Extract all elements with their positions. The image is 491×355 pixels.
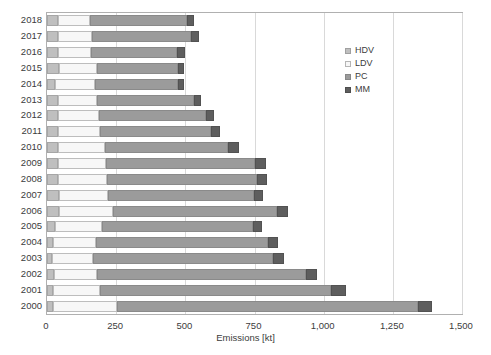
bar-row[interactable]: [47, 206, 288, 217]
bar-segment-ldv[interactable]: [53, 301, 117, 312]
bar-row[interactable]: [47, 253, 284, 264]
bar-segment-pc[interactable]: [97, 95, 194, 106]
bar-row[interactable]: [47, 126, 220, 137]
bar-segment-ldv[interactable]: [52, 253, 94, 264]
bar-segment-mm[interactable]: [178, 63, 184, 74]
bar-row[interactable]: [47, 142, 239, 153]
bar-row[interactable]: [47, 301, 432, 312]
bar-row[interactable]: [47, 221, 262, 232]
bar-segment-pc[interactable]: [102, 221, 253, 232]
bar-segment-mm[interactable]: [206, 110, 215, 121]
bar-segment-pc[interactable]: [117, 301, 419, 312]
legend-item-mm[interactable]: MM: [345, 83, 374, 96]
bar-segment-hdv[interactable]: [47, 206, 59, 217]
bar-row[interactable]: [47, 63, 184, 74]
bar-segment-hdv[interactable]: [47, 79, 55, 90]
bar-segment-ldv[interactable]: [54, 269, 97, 280]
bar-segment-mm[interactable]: [306, 269, 317, 280]
bar-segment-mm[interactable]: [178, 79, 184, 90]
bar-segment-hdv[interactable]: [47, 47, 58, 58]
bar-row[interactable]: [47, 158, 266, 169]
bar-segment-ldv[interactable]: [55, 79, 94, 90]
bar-segment-mm[interactable]: [228, 142, 239, 153]
bar-segment-mm[interactable]: [331, 285, 346, 296]
bar-segment-pc[interactable]: [108, 190, 253, 201]
bar-segment-hdv[interactable]: [47, 142, 58, 153]
bar-row[interactable]: [47, 269, 317, 280]
bar-row[interactable]: [47, 174, 267, 185]
bar-segment-ldv[interactable]: [58, 15, 90, 26]
bar-segment-pc[interactable]: [113, 206, 278, 217]
bar-segment-ldv[interactable]: [58, 95, 97, 106]
bar-row[interactable]: [47, 285, 346, 296]
bar-segment-pc[interactable]: [99, 110, 206, 121]
bar-segment-pc[interactable]: [92, 31, 191, 42]
bar-segment-hdv[interactable]: [47, 126, 58, 137]
bar-segment-ldv[interactable]: [53, 285, 100, 296]
bar-segment-mm[interactable]: [191, 31, 199, 42]
bar-row[interactable]: [47, 190, 263, 201]
bar-segment-mm[interactable]: [277, 206, 288, 217]
bar-segment-mm[interactable]: [211, 126, 220, 137]
bar-segment-ldv[interactable]: [59, 190, 109, 201]
bar-segment-hdv[interactable]: [47, 158, 58, 169]
bar-segment-pc[interactable]: [96, 237, 268, 248]
bar-segment-pc[interactable]: [97, 63, 177, 74]
bar-segment-ldv[interactable]: [59, 63, 98, 74]
bar-segment-mm[interactable]: [273, 253, 284, 264]
bar-segment-mm[interactable]: [418, 301, 432, 312]
bar-segment-mm[interactable]: [177, 47, 185, 58]
legend-item-hdv[interactable]: HDV: [345, 44, 374, 57]
bar-segment-pc[interactable]: [106, 158, 255, 169]
bar-segment-hdv[interactable]: [47, 269, 54, 280]
bar-segment-ldv[interactable]: [58, 110, 100, 121]
bar-segment-mm[interactable]: [268, 237, 279, 248]
bar-row[interactable]: [47, 47, 185, 58]
bar-segment-hdv[interactable]: [47, 63, 59, 74]
bar-segment-mm[interactable]: [187, 15, 194, 26]
bar-segment-pc[interactable]: [107, 174, 256, 185]
bar-segment-ldv[interactable]: [58, 47, 91, 58]
bar-segment-hdv[interactable]: [47, 31, 58, 42]
bar-row[interactable]: [47, 31, 199, 42]
bar-segment-hdv[interactable]: [47, 110, 58, 121]
bar-segment-pc[interactable]: [97, 269, 306, 280]
bar-segment-pc[interactable]: [100, 126, 211, 137]
bar-segment-hdv[interactable]: [47, 221, 55, 232]
bar-segment-ldv[interactable]: [58, 142, 105, 153]
legend-item-pc[interactable]: PC: [345, 70, 374, 83]
bar-segment-mm[interactable]: [257, 174, 268, 185]
bar-segment-mm[interactable]: [255, 158, 266, 169]
bar-segment-pc[interactable]: [91, 47, 177, 58]
chart-legend: HDVLDVPCMM: [345, 44, 374, 96]
bar-row[interactable]: [47, 237, 278, 248]
bar-segment-mm[interactable]: [254, 190, 264, 201]
bar-segment-hdv[interactable]: [47, 174, 58, 185]
bar-segment-ldv[interactable]: [59, 206, 113, 217]
bar-segment-ldv[interactable]: [58, 31, 92, 42]
bar-segment-hdv[interactable]: [47, 190, 59, 201]
y-axis-tick-label: 2001: [2, 284, 42, 295]
bar-segment-pc[interactable]: [100, 285, 331, 296]
bar-row[interactable]: [47, 79, 184, 90]
legend-item-ldv[interactable]: LDV: [345, 57, 374, 70]
bar-segment-mm[interactable]: [253, 221, 263, 232]
bar-segment-pc[interactable]: [105, 142, 228, 153]
bar-segment-mm[interactable]: [194, 95, 202, 106]
bar-segment-hdv[interactable]: [47, 15, 58, 26]
y-axis-tick-label: 2002: [2, 268, 42, 279]
bar-segment-pc[interactable]: [90, 15, 187, 26]
bar-segment-pc[interactable]: [95, 79, 178, 90]
bar-segment-ldv[interactable]: [58, 174, 108, 185]
bar-row[interactable]: [47, 15, 194, 26]
bar-segment-ldv[interactable]: [58, 126, 100, 137]
bar-segment-ldv[interactable]: [53, 237, 97, 248]
bar-segment-ldv[interactable]: [58, 158, 106, 169]
bar-segment-pc[interactable]: [93, 253, 273, 264]
bar-segment-hdv[interactable]: [47, 95, 58, 106]
legend-item-label: HDV: [355, 44, 374, 57]
y-axis-tick-label: 2000: [2, 300, 42, 311]
bar-row[interactable]: [47, 95, 201, 106]
bar-row[interactable]: [47, 110, 214, 121]
bar-segment-ldv[interactable]: [55, 221, 101, 232]
